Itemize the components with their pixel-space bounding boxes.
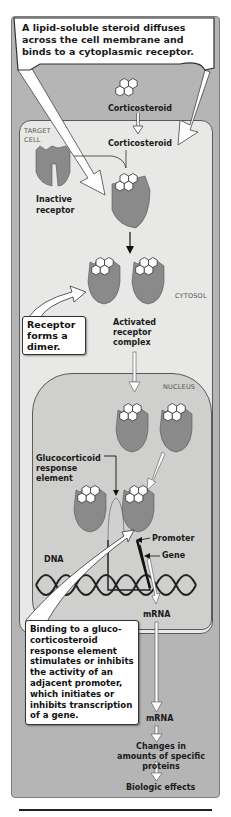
activated-complex-label: Activated receptor complex xyxy=(113,318,163,348)
corticosteroid-label-outside: Corticosteroid xyxy=(108,103,172,114)
title-callout-text: A lipid-soluble steroid diffuses across … xyxy=(22,22,212,58)
mrna-cytosol-label: mRNA xyxy=(146,713,173,724)
dimer-callout: Receptor forms a dimer. xyxy=(22,316,86,355)
gene-label: Gene xyxy=(162,550,185,561)
protein-changes-label: Changes in amounts of specific proteins xyxy=(116,742,206,772)
mrna-nucleus-label: mRNA xyxy=(143,609,170,620)
cytosol-label: CYTOSOL xyxy=(175,292,207,301)
bottom-divider xyxy=(19,809,212,811)
promoter-label: Promoter xyxy=(152,533,194,544)
nucleus-label: NUCLEUS xyxy=(163,383,195,392)
entry-arrow-right xyxy=(178,70,210,145)
inactive-receptor-label: Inactive receptor xyxy=(36,194,86,216)
biologic-effects-label: Biologic effects xyxy=(126,782,195,793)
corticosteroid-label-inside: Corticosteroid xyxy=(108,138,172,149)
gre-label: Glucocorticoid response element xyxy=(36,454,106,484)
steroid-hormone-diagram: A lipid-soluble steroid diffuses across … xyxy=(0,0,231,817)
binding-callout: Binding to a gluco-corticosteroid respon… xyxy=(25,620,139,725)
target-cell-label: TARGET CELL xyxy=(24,127,48,145)
dna-label: DNA xyxy=(44,554,64,565)
